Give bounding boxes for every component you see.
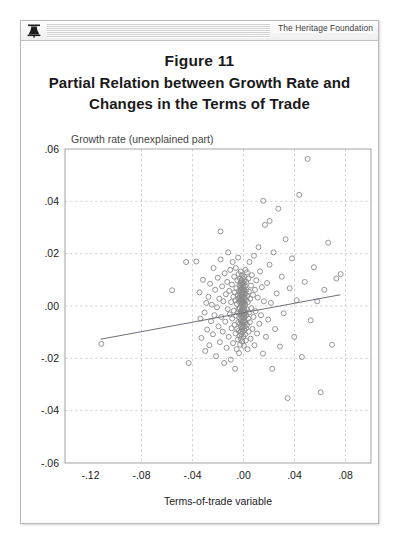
y-tick-label: .02 (44, 247, 59, 259)
data-point (224, 345, 229, 350)
data-point (294, 298, 299, 303)
x-tick-label: .04 (287, 469, 302, 481)
data-point (279, 274, 284, 279)
data-point (203, 349, 208, 354)
data-point (281, 311, 286, 316)
data-point (318, 390, 323, 395)
figure-title: Partial Relation between Growth Rate and… (35, 72, 364, 114)
data-point (200, 277, 205, 282)
data-point (194, 259, 199, 264)
data-point (261, 299, 266, 304)
data-point (197, 290, 202, 295)
data-point (283, 237, 288, 242)
x-tick-label: .00 (236, 469, 251, 481)
x-tick-label: -.12 (81, 469, 99, 481)
data-point (225, 307, 230, 312)
data-point (249, 283, 254, 288)
data-point (251, 314, 256, 319)
data-point (211, 266, 216, 271)
data-point (249, 273, 254, 278)
data-point (326, 240, 331, 245)
y-tick-label: -.06 (41, 457, 59, 469)
y-tick-label: .04 (44, 195, 59, 207)
data-point (213, 287, 218, 292)
data-point (287, 286, 292, 291)
data-point (207, 343, 212, 348)
figure-title-line-2: Changes in the Terms of Trade (35, 93, 364, 114)
data-point (209, 302, 214, 307)
data-points-group (99, 156, 343, 400)
y-tick-label: -.04 (41, 404, 59, 416)
data-point (218, 257, 223, 262)
y-tick-label: .06 (44, 143, 59, 155)
data-point (226, 334, 231, 339)
title-block: Figure 11 Partial Relation between Growt… (21, 41, 378, 114)
data-point (220, 284, 225, 289)
data-point (258, 313, 263, 318)
data-point (276, 206, 281, 211)
data-point (184, 260, 189, 265)
data-point (308, 318, 313, 323)
data-point (265, 280, 270, 285)
data-point (302, 279, 307, 284)
data-point (257, 321, 262, 326)
y-tick-label: .00 (44, 300, 59, 312)
data-point (186, 361, 191, 366)
data-point (245, 347, 250, 352)
data-point (273, 327, 278, 332)
data-point (274, 291, 279, 296)
x-axis-title-group: Terms-of-trade variable (164, 495, 272, 506)
data-point (285, 396, 290, 401)
data-point (210, 332, 215, 337)
data-point (99, 341, 104, 346)
data-point (255, 331, 260, 336)
figure-title-line-1: Partial Relation between Growth Rate and (35, 72, 364, 93)
data-point (322, 287, 327, 292)
data-point (261, 198, 266, 203)
data-point (256, 245, 261, 250)
data-point (250, 327, 255, 332)
scatter-chart: Growth rate (unexplained part) -.12-.08-… (21, 121, 380, 506)
data-point (202, 310, 207, 315)
brand-name: The Heritage Foundation (273, 23, 373, 33)
data-point (206, 294, 211, 299)
data-point (223, 319, 228, 324)
data-point (222, 271, 227, 276)
y-tick-labels-group: -.06-.04-.02.00.02.04.06 (41, 143, 59, 469)
data-point (250, 293, 255, 298)
figure-card: The Heritage Foundation Figure 11 Partia… (20, 20, 379, 524)
data-point (226, 250, 231, 255)
data-point (220, 329, 225, 334)
data-point (297, 192, 302, 197)
data-point (260, 351, 265, 356)
data-point (218, 229, 223, 234)
data-point (252, 343, 257, 348)
data-point (270, 366, 275, 371)
data-point (271, 250, 276, 255)
data-point (212, 313, 217, 318)
y-tick-label: -.02 (41, 352, 59, 364)
data-point (338, 272, 343, 277)
data-point (277, 344, 282, 349)
data-point (204, 300, 209, 305)
data-point (170, 288, 175, 293)
data-point (330, 342, 335, 347)
data-point (237, 351, 242, 356)
heritage-bell-icon (25, 23, 43, 38)
x-tick-label: -.08 (132, 469, 150, 481)
data-point (229, 282, 234, 287)
data-point (262, 222, 267, 227)
data-point (214, 305, 219, 310)
data-point (217, 340, 222, 345)
data-point (230, 260, 235, 265)
figure-header-band: The Heritage Foundation (21, 21, 378, 41)
x-tick-label: -.04 (183, 469, 201, 481)
data-point (216, 324, 221, 329)
data-point (231, 341, 236, 346)
gridlines-group (65, 149, 371, 463)
data-point (225, 279, 230, 284)
data-point (233, 266, 238, 271)
data-point (233, 366, 238, 371)
data-point (305, 156, 310, 161)
data-point (263, 334, 268, 339)
